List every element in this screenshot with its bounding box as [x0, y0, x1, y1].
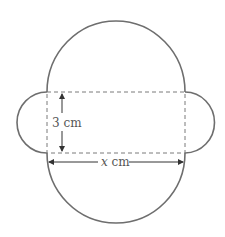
width-label: x cm [101, 155, 130, 169]
top-semicircle [47, 21, 185, 92]
left-semicircle [17, 92, 47, 153]
width-unit: cm [108, 155, 131, 169]
composite-shape-diagram: 3 cm x cm [0, 0, 225, 237]
right-semicircle [185, 92, 215, 153]
height-label: 3 cm [52, 116, 82, 130]
